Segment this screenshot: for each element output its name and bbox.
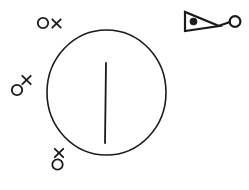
- marker-x-icon: [52, 19, 60, 27]
- flag-glyph: [185, 12, 240, 31]
- marker-pair-top-left: [38, 18, 61, 28]
- marker-circle-icon: [38, 18, 48, 28]
- figure-svg: [0, 0, 249, 190]
- marker-x-icon: [55, 149, 63, 157]
- end-circle-icon: [230, 16, 241, 27]
- drawing-canvas: A large open circle containing a short v…: [0, 0, 249, 190]
- marker-circle-icon: [52, 159, 62, 169]
- marker-x-icon: [22, 76, 30, 84]
- marker-pair-left-middle: [12, 76, 31, 95]
- inner-vertical-line: [105, 63, 106, 143]
- marker-pair-bottom-left: [52, 149, 63, 170]
- connector-line: [219, 22, 230, 26]
- marker-circle-icon: [12, 85, 22, 95]
- triangle-dot-icon: [190, 18, 197, 25]
